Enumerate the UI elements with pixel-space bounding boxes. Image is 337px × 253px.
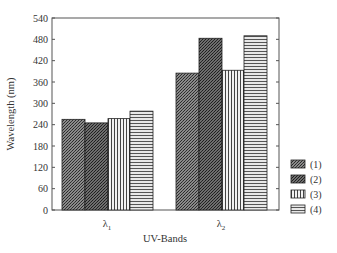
- bar-series-2-cat-1: [85, 123, 108, 210]
- y-tick-label: 240: [33, 119, 48, 130]
- bars-group: [62, 36, 267, 210]
- y-tick-label: 480: [33, 34, 48, 45]
- legend-label-3: (3): [310, 189, 322, 201]
- legend-label-4: (4): [310, 204, 322, 216]
- x-axis-categories: λ1λ2: [103, 218, 226, 232]
- x-category-label: λ2: [217, 218, 226, 232]
- legend-swatch-3: [291, 190, 305, 198]
- legend-label-1: (1): [310, 159, 322, 171]
- bar-chart: 060120180240300360420480540 λ1λ2 UV-Band…: [0, 0, 337, 253]
- y-tick-label: 540: [33, 13, 48, 24]
- y-tick-label: 60: [38, 183, 48, 194]
- y-tick-label: 0: [43, 205, 48, 216]
- x-category-label: λ1: [103, 218, 112, 232]
- y-tick-label: 120: [33, 162, 48, 173]
- y-tick-label: 180: [33, 141, 48, 152]
- bar-series-2-cat-2: [199, 38, 222, 210]
- legend-swatch-1: [291, 160, 305, 168]
- legend-swatch-2: [291, 175, 305, 183]
- bar-series-1-cat-1: [62, 119, 85, 210]
- y-tick-label: 360: [33, 77, 48, 88]
- bar-series-4-cat-1: [130, 111, 153, 210]
- bar-series-3-cat-1: [108, 119, 130, 210]
- bar-series-1-cat-2: [176, 73, 199, 210]
- y-axis-title: Wavelength (nm): [5, 77, 17, 150]
- legend-label-2: (2): [310, 174, 322, 186]
- y-tick-label: 300: [33, 98, 48, 109]
- legend-swatch-4: [291, 205, 305, 213]
- legend: (1)(2)(3)(4): [291, 159, 322, 216]
- y-tick-label: 420: [33, 55, 48, 66]
- bar-series-4-cat-2: [244, 36, 267, 210]
- bar-series-3-cat-2: [222, 70, 244, 210]
- x-axis-title: UV-Bands: [143, 233, 187, 244]
